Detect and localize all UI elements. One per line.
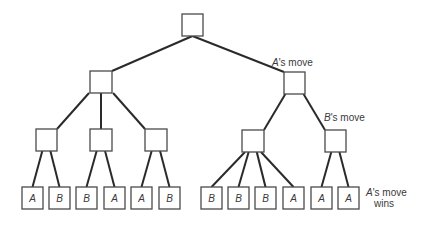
leaf-label-a: A [317,193,325,204]
edge-root-to-level1 [193,36,285,72]
annotation-b-move: B's move [324,112,365,123]
leaf-label-b: B [83,193,90,204]
leaf-label-a: A [28,193,36,204]
edge-level1-to-level2 [264,94,285,130]
annotation-a-move-wins-line2: wins [373,198,394,209]
edge-level1-to-level2 [57,93,89,129]
edge-level2-to-leaf [261,152,294,187]
edge-level2-to-leaf [105,151,114,187]
edge-level1-to-level2 [304,94,325,130]
leaf-label-b: B [235,193,242,204]
edge-level2-to-leaf [257,152,266,187]
edge-level1-to-level2 [113,93,145,129]
level1-node [284,72,305,94]
level1-node [90,71,112,93]
leaf-label-b: B [166,193,173,204]
edge-level2-to-leaf [50,151,59,187]
level2-node [90,129,112,151]
leaf-label-a: A [137,193,145,204]
root-node [182,14,203,36]
edge-root-to-level1 [112,36,193,71]
level2-node [36,129,57,151]
edge-level2-to-leaf [142,151,152,187]
leaf-label-a: A [289,193,297,204]
leaf-label-a: A [344,193,352,204]
edge-level2-to-leaf [33,151,43,187]
edge-level2-to-leaf [87,151,97,187]
leaf-label-b: B [208,193,215,204]
annotation-a-move: A's move [271,57,313,68]
level2-node [325,130,346,152]
level2-node [242,130,264,152]
leaf-label-b: B [262,193,269,204]
game-tree-diagram: ABBAABBBBAAA A's move B's move A's move … [0,0,424,229]
edge-level2-to-leaf [339,152,348,187]
leaf-label-a: A [110,193,118,204]
leaf-label-b: B [56,193,63,204]
annotation-a-move-wins-line1: A's move [365,187,407,198]
level2-node [145,129,167,151]
edge-level2-to-leaf [322,152,332,187]
edge-level2-to-leaf [160,151,169,187]
